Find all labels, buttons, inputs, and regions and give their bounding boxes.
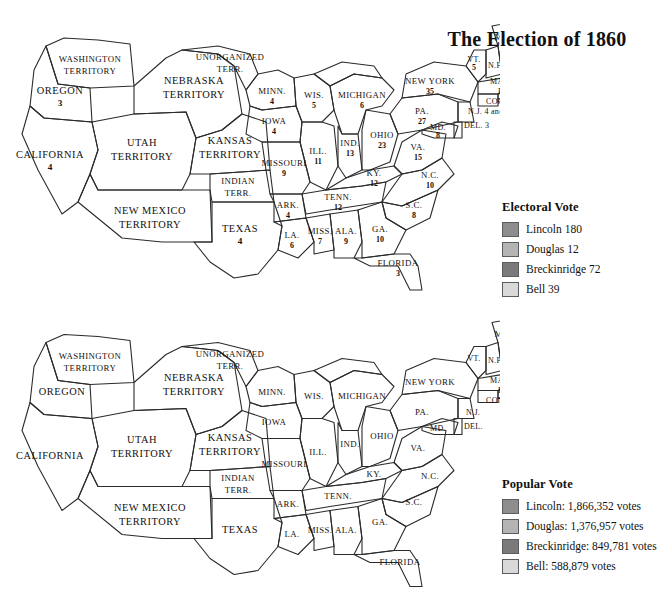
label-vermont: VT.	[468, 354, 481, 363]
label-delaware: DEL.	[464, 422, 483, 431]
label-california: CALIFORNIA	[16, 149, 84, 160]
legend-label-douglas: Douglas 12	[526, 243, 579, 256]
label-georgia: GA.	[372, 224, 388, 234]
region-indiana	[338, 423, 362, 475]
label-pennsylvania-votes: 27	[418, 117, 426, 126]
label-iowa: IOWA	[262, 116, 287, 126]
label-illinois: ILL.	[309, 146, 326, 156]
label-nebraska-territory: NEBRASKA	[164, 75, 224, 86]
label-rhode-island: R.I.	[498, 386, 500, 395]
label-alabama: ALA.	[335, 525, 357, 535]
legend-item-breckinridge: Breckinridge: 849,781 votes	[502, 539, 671, 554]
label-arkansas-votes: 4	[286, 211, 290, 220]
region-georgia	[358, 499, 406, 555]
label-nebraska-territory-2: TERRITORY	[163, 89, 225, 100]
label-new-york: NEW YORK	[405, 76, 455, 86]
label-texas-votes: 4	[238, 236, 243, 246]
region-missouri	[262, 142, 310, 194]
legend-item-douglas: Douglas 12	[502, 242, 667, 257]
label-washington-territory: WASHINGTON	[59, 351, 122, 361]
legend-item-douglas: Douglas: 1,376,957 votes	[502, 519, 671, 534]
popular-vote-map: WASHINGTON TERRITORY OREGON CALIFORNIA U…	[10, 312, 500, 597]
label-tennessee: TENN.	[324, 491, 352, 501]
electoral-vote-map: WASHINGTON TERRITORY OREGON 3 CALIFORNIA…	[10, 18, 500, 298]
region-south-carolina	[382, 487, 438, 527]
swatch-lincoln	[502, 222, 519, 237]
label-virginia: VA.	[411, 142, 426, 152]
region-south-carolina	[382, 190, 438, 230]
electoral-map-labels: WASHINGTON TERRITORY OREGON 3 CALIFORNIA…	[16, 32, 500, 278]
swatch-lincoln	[502, 499, 519, 514]
region-texas	[194, 499, 282, 575]
label-unorganized-territory: UNORGANIZED	[196, 52, 264, 62]
label-louisiana-votes: 6	[290, 241, 294, 250]
label-ohio: OHIO	[370, 431, 394, 441]
label-maryland-votes: 8	[436, 131, 440, 140]
label-florida: FLORIDA	[378, 258, 419, 268]
label-nebraska-territory-2: TERRITORY	[163, 386, 225, 397]
election-map-page: The Election of 1860	[0, 0, 671, 613]
label-missouri: MISSOURI	[261, 158, 306, 168]
label-south-carolina-votes: 8	[412, 211, 416, 220]
label-alabama-votes: 9	[344, 237, 348, 246]
legend-item-breckinridge: Breckinridge 72	[502, 262, 667, 277]
label-oregon: OREGON	[39, 386, 85, 397]
label-unorganized-territory: UNORGANIZED	[196, 349, 264, 359]
label-virginia-votes: 15	[414, 153, 422, 162]
label-virginia: VA.	[411, 443, 426, 453]
label-minnesota: MINN.	[258, 387, 286, 397]
legend-label-douglas: Douglas: 1,376,957 votes	[526, 520, 644, 533]
label-north-carolina: N.C.	[421, 471, 439, 481]
label-maine: MAINE	[495, 32, 500, 42]
label-indian-territory-2: TERR.	[225, 188, 252, 198]
swatch-breckinridge	[502, 539, 519, 554]
label-new-york: NEW YORK	[405, 377, 455, 387]
electoral-legend-title: Electoral Vote	[502, 200, 667, 215]
label-washington-territory-2: TERRITORY	[64, 66, 117, 76]
label-south-carolina: S.C.	[406, 200, 423, 210]
label-mississippi: MISS.	[308, 226, 333, 236]
label-new-jersey: N.J.	[466, 408, 480, 417]
region-illinois	[300, 122, 338, 190]
label-illinois: ILL.	[309, 447, 326, 457]
label-minnesota: MINN.	[258, 86, 286, 96]
legend-label-breckinridge: Breckinridge 72	[526, 263, 600, 276]
label-massachusetts: MASS. 13	[490, 77, 500, 86]
label-maine: MAINE	[495, 329, 500, 339]
popular-legend-title: Popular Vote	[502, 477, 671, 492]
legend-item-bell: Bell 39	[502, 282, 667, 297]
label-michigan: MICHIGAN	[338, 90, 386, 100]
label-missouri-votes: 9	[282, 169, 286, 178]
label-connecticut: CONN.	[486, 396, 500, 405]
electoral-vote-legend: Electoral Vote Lincoln 180 Douglas 12 Br…	[502, 200, 667, 302]
label-vermont-votes: 5	[472, 63, 476, 72]
label-new-york-votes: 35	[426, 87, 434, 96]
label-utah-territory: UTAH	[127, 434, 157, 445]
label-kansas-territory: KANSAS	[208, 432, 253, 443]
label-massachusetts: MASS.	[490, 376, 500, 385]
label-kansas-territory-2: TERRITORY	[199, 446, 261, 457]
label-arkansas: ARK.	[277, 499, 299, 509]
legend-label-lincoln: Lincoln: 1,866,352 votes	[526, 500, 641, 513]
region-vermont	[466, 347, 486, 379]
region-ohio	[362, 110, 398, 170]
legend-label-bell: Bell 39	[526, 283, 560, 296]
label-maryland: MD.	[430, 424, 446, 433]
label-tennessee-votes: 12	[334, 203, 342, 212]
swatch-douglas	[502, 242, 519, 257]
label-michigan-votes: 6	[360, 101, 364, 110]
label-michigan: MICHIGAN	[338, 391, 386, 401]
electoral-map-svg: WASHINGTON TERRITORY OREGON 3 CALIFORNIA…	[10, 18, 500, 298]
label-new-mexico-territory-2: TERRITORY	[119, 219, 181, 230]
label-wisconsin-votes: 5	[312, 101, 316, 110]
label-minnesota-votes: 4	[270, 97, 274, 106]
label-iowa: IOWA	[262, 417, 287, 427]
label-kansas-territory: KANSAS	[208, 135, 253, 146]
label-new-mexico-territory: NEW MEXICO	[114, 205, 186, 216]
label-wisconsin: WIS.	[304, 90, 324, 100]
label-california: CALIFORNIA	[16, 450, 84, 461]
label-kentucky: KY.	[367, 168, 382, 178]
label-unorganized-territory-2: TERR.	[217, 361, 244, 371]
label-ohio-votes: 23	[378, 141, 386, 150]
label-louisiana: LA.	[284, 230, 299, 240]
